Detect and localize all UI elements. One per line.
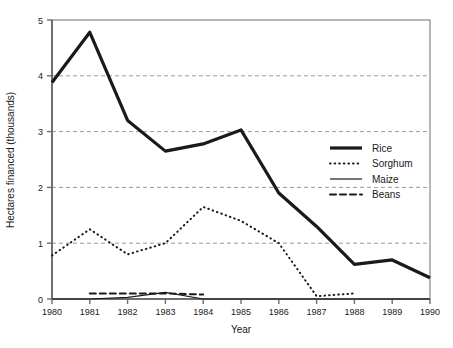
- x-tick-label: 1989: [382, 307, 402, 317]
- y-tick-label: 5: [38, 16, 43, 26]
- y-tick-label: 0: [38, 295, 43, 305]
- x-axis: 1980198119821983198419851986198719881989…: [42, 299, 440, 317]
- x-tick-label: 1985: [231, 307, 251, 317]
- y-axis: 012345: [38, 16, 52, 305]
- line-chart: 012345 198019811982198319841985198619871…: [0, 0, 453, 348]
- x-tick-label: 1990: [420, 307, 440, 317]
- x-tick-label: 1986: [269, 307, 289, 317]
- chart-canvas: 012345 198019811982198319841985198619871…: [0, 0, 453, 348]
- y-tick-label: 3: [38, 127, 43, 137]
- x-tick-label: 1984: [193, 307, 213, 317]
- legend-label-rice: Rice: [372, 143, 392, 154]
- legend-label-sorghum: Sorghum: [372, 158, 413, 169]
- x-tick-label: 1987: [307, 307, 327, 317]
- y-axis-title: Hectares financed (thousands): [5, 92, 16, 228]
- legend-label-maize: Maize: [372, 174, 399, 185]
- x-tick-label: 1981: [80, 307, 100, 317]
- y-tick-label: 4: [38, 71, 43, 81]
- y-tick-label: 2: [38, 183, 43, 193]
- x-tick-label: 1982: [118, 307, 138, 317]
- y-tick-label: 1: [38, 239, 43, 249]
- x-tick-label: 1980: [42, 307, 62, 317]
- legend-label-beans: Beans: [372, 189, 400, 200]
- x-axis-title: Year: [231, 324, 252, 335]
- x-tick-label: 1983: [155, 307, 175, 317]
- x-tick-label: 1988: [344, 307, 364, 317]
